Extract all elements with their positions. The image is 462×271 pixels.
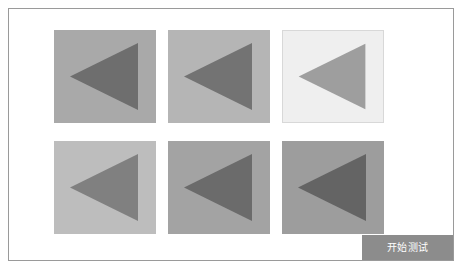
- left-triangle-icon: [282, 141, 384, 234]
- tile-1-0[interactable]: [54, 141, 156, 234]
- app-frame: 开始测试: [8, 8, 454, 261]
- left-triangle-icon: [168, 141, 270, 234]
- tile-0-2[interactable]: [282, 30, 384, 123]
- stimulus-tile-grid: [54, 30, 384, 234]
- left-triangle-icon: [283, 31, 383, 122]
- start-test-button[interactable]: 开始测试: [362, 235, 453, 260]
- tile-0-1[interactable]: [168, 30, 270, 123]
- left-triangle-icon: [54, 141, 156, 234]
- tile-0-0[interactable]: [54, 30, 156, 123]
- tile-1-2[interactable]: [282, 141, 384, 234]
- left-triangle-icon: [54, 30, 156, 123]
- tile-1-1[interactable]: [168, 141, 270, 234]
- left-triangle-icon: [168, 30, 270, 123]
